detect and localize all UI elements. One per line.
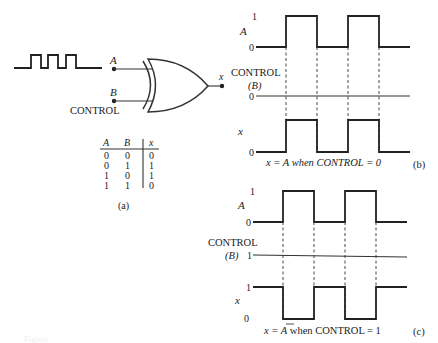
a-waveform xyxy=(256,16,410,47)
panel-a-caption: (a) xyxy=(118,200,129,212)
a-level-1: 1 xyxy=(250,186,255,197)
input-b-label: B xyxy=(110,86,117,98)
truth-table-header-b: B xyxy=(124,137,130,148)
panel-b-waveforms: 1 A 0 CONTROL (B) 0 x 0 x = A when CONTR… xyxy=(231,11,426,171)
control-level: 1 xyxy=(247,250,252,261)
x-waveform xyxy=(256,120,410,152)
svg-text:1: 1 xyxy=(125,180,130,191)
circuit-diagram: A B CONTROL x xyxy=(14,54,224,116)
truth-table-header-a: A xyxy=(102,137,110,148)
control-level: 0 xyxy=(249,91,254,102)
svg-text:0: 0 xyxy=(149,180,154,191)
xor-gate-body xyxy=(148,59,208,112)
x-signal-label: x xyxy=(237,125,243,137)
figure-caption: Figure xyxy=(24,334,48,343)
panel-c-waveforms: 1 A 0 CONTROL (B) 1 1 x 0 x = A when CON… xyxy=(208,186,425,338)
a-signal-label: A xyxy=(239,25,247,37)
panel-c-tag: (c) xyxy=(413,326,425,338)
input-a-label: A xyxy=(109,54,117,66)
a-level-0: 0 xyxy=(249,42,254,53)
truth-table: A B x 0 0 0 0 1 1 1 0 1 1 1 0 (a) xyxy=(100,137,159,212)
control-label: CONTROL xyxy=(70,105,120,116)
a-level-1: 1 xyxy=(252,11,257,22)
panel-b-tag: (b) xyxy=(413,159,426,171)
control-signal-label: CONTROL xyxy=(208,237,258,248)
input-square-wave xyxy=(14,55,102,68)
x-waveform xyxy=(253,287,407,319)
xor-input-arc xyxy=(143,61,151,109)
a-level-0: 0 xyxy=(246,217,251,228)
x-signal-label: x xyxy=(234,294,240,306)
x-level-1: 1 xyxy=(246,282,251,293)
x-level-0: 0 xyxy=(249,147,254,158)
a-waveform xyxy=(253,191,407,222)
output-terminal xyxy=(220,84,224,88)
x-level-0: 0 xyxy=(244,313,249,324)
panel-c-caption: x = A when CONTROL = 1 xyxy=(263,325,381,336)
svg-text:1: 1 xyxy=(104,180,109,191)
panel-b-caption: x = A when CONTROL = 0 xyxy=(265,157,382,168)
control-b-sublabel: (B) xyxy=(225,250,239,262)
a-signal-label: A xyxy=(237,199,245,211)
control-signal-label: CONTROL xyxy=(231,67,281,78)
truth-table-header-x: x xyxy=(148,137,154,148)
control-waveform xyxy=(253,255,407,257)
output-x-label: x xyxy=(218,71,224,82)
xor-controlled-inverter-figure: A B CONTROL x A B x 0 0 0 0 1 1 1 xyxy=(0,0,438,343)
truth-table-row: 1 1 0 xyxy=(104,180,154,191)
